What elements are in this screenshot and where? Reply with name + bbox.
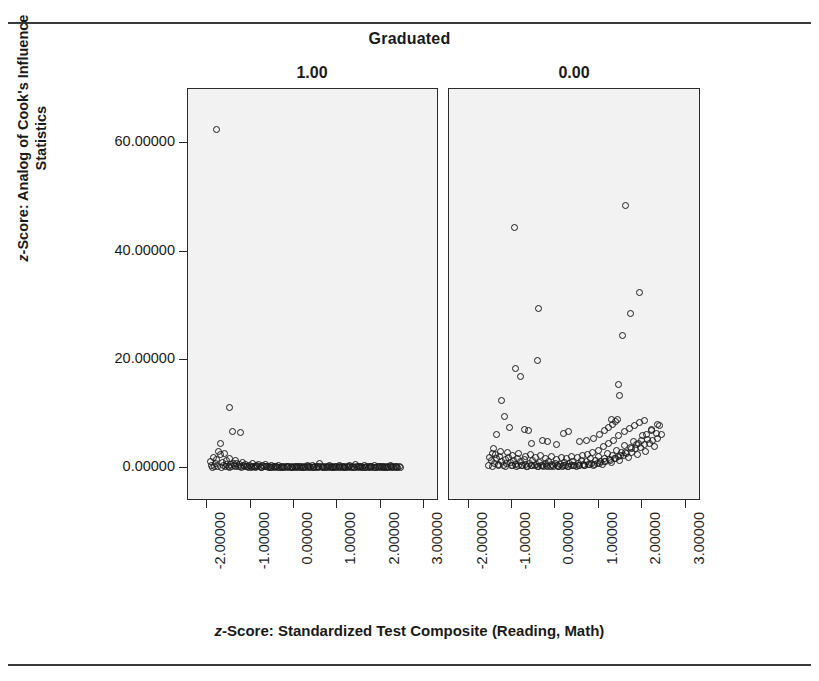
data-point	[619, 332, 626, 339]
data-point	[651, 443, 658, 450]
x-axis-tick	[380, 500, 381, 508]
x-axis-tick	[250, 500, 251, 508]
y-axis-title-line1: -Score: Analog of Cook's Influence	[15, 15, 31, 255]
x-axis-tick-label: 0.00000	[560, 512, 576, 564]
scatter-plot-area-right	[449, 89, 699, 499]
panel-graduated-1[interactable]	[187, 88, 438, 500]
x-axis-tick-label: -1.00000	[517, 512, 533, 569]
panel-graduated-0[interactable]	[448, 88, 700, 500]
x-axis-tick	[468, 500, 469, 508]
data-point	[237, 429, 244, 436]
data-point	[497, 448, 504, 455]
x-axis-tick-label: 3.00000	[691, 512, 707, 564]
x-axis-title-z: z	[215, 622, 223, 639]
data-point	[528, 440, 535, 447]
x-axis-tick	[206, 500, 207, 508]
data-point	[535, 305, 542, 312]
x-axis-tick-label: 2.00000	[386, 512, 402, 564]
data-point	[658, 431, 665, 438]
panel-label-graduated-0: 0.00	[494, 64, 654, 82]
data-point	[636, 289, 643, 296]
y-axis-tick	[179, 359, 187, 360]
data-point	[615, 381, 622, 388]
data-point	[576, 438, 583, 445]
figure-top-rule	[8, 22, 811, 24]
y-axis-title-line2: Statistics	[33, 106, 49, 170]
data-point	[634, 451, 641, 458]
y-axis-tick-label: 60.00000	[79, 133, 175, 149]
data-point	[553, 441, 560, 448]
y-axis-tick-label: 40.00000	[79, 242, 175, 258]
data-point	[512, 365, 519, 372]
y-axis-tick	[179, 142, 187, 143]
data-point	[622, 202, 629, 209]
x-axis-tick	[511, 500, 512, 508]
y-axis-tick	[179, 251, 187, 252]
x-axis-tick	[293, 500, 294, 508]
x-axis-title: z-Score: Standardized Test Composite (Re…	[0, 622, 819, 639]
data-point	[525, 427, 532, 434]
y-axis-title-z: z	[15, 254, 31, 261]
data-point	[614, 416, 621, 423]
data-point	[213, 126, 220, 133]
panel-label-graduated-1: 1.00	[232, 64, 392, 82]
data-point	[226, 404, 233, 411]
x-axis-tick	[641, 500, 642, 508]
figure-bottom-rule	[8, 664, 811, 666]
data-point	[506, 424, 513, 431]
data-point	[217, 440, 224, 447]
data-point	[654, 421, 661, 428]
x-axis-tick-label: -1.00000	[256, 512, 272, 569]
data-point	[534, 357, 541, 364]
data-point	[515, 450, 522, 457]
data-point	[511, 224, 518, 231]
x-axis-tick	[336, 500, 337, 508]
x-axis-tick	[423, 500, 424, 508]
x-axis-tick-label: 1.00000	[342, 512, 358, 564]
x-axis-tick-label: 2.00000	[647, 512, 663, 564]
data-point	[544, 438, 551, 445]
scatter-plot-area-left	[188, 89, 437, 499]
data-point	[565, 428, 572, 435]
x-axis-tick-label: 3.00000	[429, 512, 445, 564]
x-axis-tick	[554, 500, 555, 508]
data-point	[517, 373, 524, 380]
x-axis-tick-label: -2.00000	[212, 512, 228, 569]
x-axis-title-rest: -Score: Standardized Test Composite (Rea…	[222, 622, 604, 639]
data-point	[627, 310, 634, 317]
data-point	[493, 431, 500, 438]
data-point	[393, 464, 400, 471]
x-axis-tick-label: -2.00000	[474, 512, 490, 569]
x-axis-tick-label: 0.00000	[299, 512, 315, 564]
y-axis-tick-label: 0.00000	[79, 458, 175, 474]
y-axis-title: z-Score: Analog of Cook's Influence Stat…	[14, 0, 50, 308]
data-point	[583, 437, 590, 444]
data-point	[501, 413, 508, 420]
figure-container: Graduated 1.00 0.00 z-Score: Analog of C…	[0, 0, 819, 681]
y-axis-tick-label: 20.00000	[79, 350, 175, 366]
x-axis-tick-label: 1.00000	[604, 512, 620, 564]
data-point	[641, 417, 648, 424]
data-point	[616, 392, 623, 399]
panel-label-strip: 1.00 0.00	[0, 64, 819, 86]
data-point	[638, 437, 645, 444]
y-axis-tick	[179, 467, 187, 468]
data-point	[498, 397, 505, 404]
x-axis-tick	[685, 500, 686, 508]
figure-title: Graduated	[0, 30, 819, 48]
data-point	[229, 428, 236, 435]
data-point	[642, 448, 649, 455]
x-axis-tick	[598, 500, 599, 508]
